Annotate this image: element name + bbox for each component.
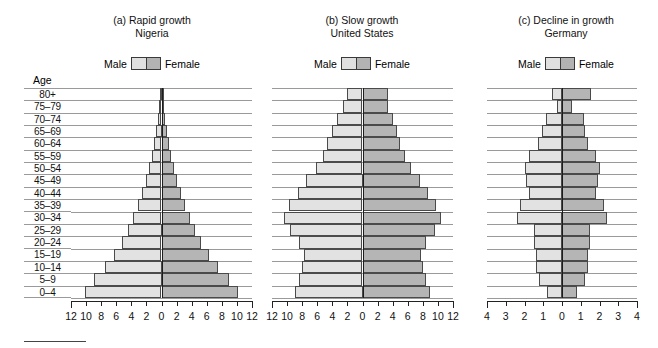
- axis-tick: [116, 301, 117, 306]
- legend-male-label: Male: [314, 58, 337, 70]
- axis-tick-label: 10: [80, 310, 92, 322]
- age-group-label: 40–44: [24, 187, 71, 199]
- age-group-label: 60–64: [24, 137, 71, 149]
- axis-tick-label: 2: [522, 310, 528, 322]
- footnote-rule: [24, 341, 86, 342]
- axis-tick-label: 4: [484, 310, 490, 322]
- axis-tick-label: 12: [65, 310, 77, 322]
- age-group-label: 15–19: [24, 248, 71, 260]
- x-axis-labels-germany: 432101234: [487, 310, 637, 323]
- axis-tick: [131, 301, 132, 306]
- bar-female: [562, 113, 584, 125]
- axis-tick: [192, 301, 193, 306]
- bar-male: [327, 137, 362, 149]
- age-group-label: 45–49: [24, 174, 71, 186]
- axis-tick-label: 0: [559, 310, 565, 322]
- bar-female: [162, 261, 219, 273]
- age-group-label: 55–59: [24, 150, 71, 162]
- center-axis-line: [363, 88, 364, 298]
- axis-tick: [423, 301, 424, 306]
- bar-female: [363, 273, 426, 285]
- age-group-label: 10–14: [24, 261, 71, 273]
- bar-female: [162, 249, 210, 261]
- axis-tick-label: 4: [390, 310, 396, 322]
- legend-female-swatch: [560, 57, 575, 70]
- bar-male: [520, 199, 562, 211]
- x-axis-nigeria: [71, 301, 252, 310]
- bar-female: [562, 212, 607, 224]
- bar-male: [534, 224, 562, 236]
- axis-tick: [222, 301, 223, 306]
- age-group-label: 65–69: [24, 125, 71, 137]
- bar-male: [347, 88, 362, 100]
- axis-tick: [207, 301, 208, 306]
- bar-female: [562, 150, 596, 162]
- bar-male: [332, 125, 363, 137]
- legend-female-swatch: [146, 57, 161, 70]
- axis-tick: [543, 301, 544, 306]
- plot-area: [487, 88, 637, 298]
- panel-title-label: (b) Slow growth: [262, 14, 462, 27]
- axis-tick: [146, 301, 147, 306]
- x-axis-united-states: [272, 301, 453, 310]
- axis-tick-label: 2: [597, 310, 603, 322]
- axis-tick: [581, 301, 582, 306]
- axis-tick: [393, 301, 394, 306]
- bar-female: [162, 212, 191, 224]
- bar-male: [539, 273, 562, 285]
- axis-tick: [378, 301, 379, 306]
- bar-female: [162, 137, 170, 149]
- axis-tick-label: 6: [204, 310, 210, 322]
- bar-female: [363, 187, 429, 199]
- bar-female: [363, 286, 431, 298]
- bar-male: [289, 199, 362, 211]
- age-group-label: 75–79: [24, 100, 71, 112]
- bar-male: [114, 249, 162, 261]
- axis-tick-label: 8: [420, 310, 426, 322]
- plot-area: [272, 88, 453, 298]
- bar-male: [146, 174, 162, 186]
- legend-male-swatch: [545, 57, 560, 70]
- bar-male: [105, 261, 162, 273]
- bar-male: [546, 113, 562, 125]
- bar-male: [152, 150, 162, 162]
- bar-female: [363, 88, 389, 100]
- bar-female: [162, 162, 175, 174]
- age-group-label: 70–74: [24, 113, 71, 125]
- legend-united-states: Male Female: [304, 57, 420, 70]
- bar-male: [536, 261, 562, 273]
- bar-male: [552, 88, 562, 100]
- bar-female: [562, 261, 588, 273]
- axis-tick: [237, 301, 238, 306]
- panel-title-country: Germany: [466, 27, 658, 40]
- bar-male: [323, 150, 363, 162]
- bar-male: [128, 224, 162, 236]
- legend-male-swatch: [341, 57, 356, 70]
- bar-female: [162, 273, 230, 285]
- axis-tick: [71, 301, 72, 308]
- bar-male: [304, 249, 363, 261]
- bar-male: [154, 137, 162, 149]
- axis-tick-label: 10: [231, 310, 243, 322]
- bar-male: [290, 224, 362, 236]
- bar-female: [162, 174, 178, 186]
- bar-female: [562, 162, 600, 174]
- bar-female: [162, 150, 172, 162]
- chart-panel-united-states: [272, 88, 453, 328]
- bar-female: [562, 249, 588, 261]
- axis-tick-label: 12: [266, 310, 278, 322]
- axis-tick: [252, 301, 253, 308]
- axis-tick-label: 10: [432, 310, 444, 322]
- gridline: [272, 298, 453, 299]
- legend-female-label: Female: [165, 58, 200, 70]
- bar-female: [562, 187, 596, 199]
- bar-male: [94, 273, 162, 285]
- center-axis-line: [562, 88, 563, 298]
- axis-tick: [487, 301, 488, 308]
- legend-nigeria: Male Female: [94, 57, 210, 70]
- axis-tick: [506, 301, 507, 306]
- age-group-label: 0–4: [24, 286, 71, 298]
- axis-tick-label: 6: [405, 310, 411, 322]
- chart-panel-germany: [487, 88, 637, 328]
- bar-female: [562, 236, 590, 248]
